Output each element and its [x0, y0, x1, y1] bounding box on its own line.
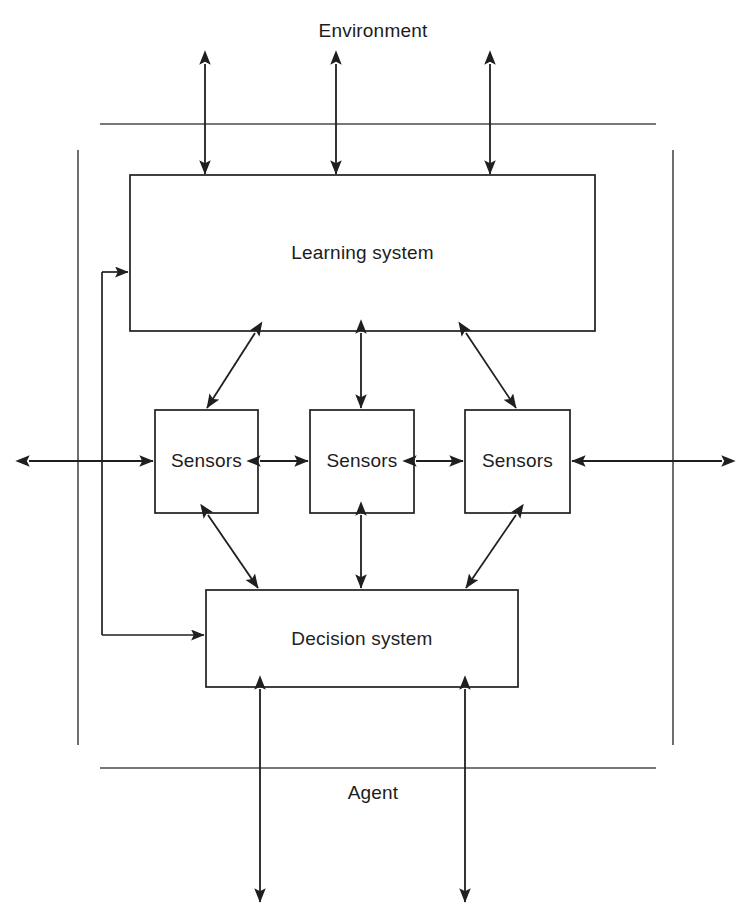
- learning-sensors-arrows: [207, 333, 516, 408]
- decision-system-label: Decision system: [206, 628, 518, 650]
- sensors-center-label: Sensors: [310, 450, 414, 472]
- agent-region-label: Agent: [0, 782, 746, 804]
- sensors-right-label: Sensors: [465, 450, 570, 472]
- learning-sensors-left-arrow: [207, 333, 255, 408]
- learning-system-label: Learning system: [130, 242, 595, 264]
- sensors-left-label: Sensors: [155, 450, 258, 472]
- sensors-right-decision-arrow: [466, 515, 516, 588]
- sensors-decision-arrows: [208, 515, 516, 588]
- environment-region-label: Environment: [0, 20, 746, 42]
- sensors-left-decision-arrow: [208, 515, 258, 588]
- environment-learning-arrows: [205, 64, 490, 174]
- learning-sensors-right-arrow: [466, 333, 516, 408]
- agent-architecture-diagram: Environment Agent Learning system Sensor…: [0, 0, 746, 916]
